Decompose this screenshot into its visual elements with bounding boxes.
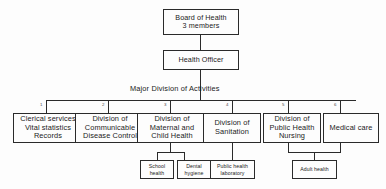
- division-number-6: 6: [334, 102, 336, 107]
- node-health-officer-label: Health Officer: [178, 56, 223, 64]
- node-subunit-public-health-laboratory[interactable]: Public health laboratory: [210, 160, 255, 179]
- node-division-3-line3: Child Health: [151, 132, 192, 141]
- node-board-of-health[interactable]: Board of Health 3 members: [163, 9, 239, 35]
- node-division-1-line3: Records: [34, 132, 62, 141]
- major-division-of-activities-label: Major Division of Activities: [130, 84, 220, 93]
- node-division-2-line3: Disease Control: [83, 132, 137, 141]
- division-number-5: 5: [282, 102, 284, 107]
- node-division-2-communicable-disease-control[interactable]: Division of Communicable Disease Control: [75, 113, 145, 143]
- connector-bar-to-division-3: [170, 100, 171, 113]
- connector-division-3-drop: [170, 143, 171, 152]
- division-number-4: 4: [226, 102, 228, 107]
- org-chart: Board of Health 3 members Health Officer…: [0, 0, 386, 189]
- connector-bar-to-division-4: [232, 100, 233, 113]
- node-subunit-adult-health[interactable]: Adult health: [292, 160, 337, 179]
- node-division-5-public-health-nursing[interactable]: Division of Public Health Nursing: [263, 113, 321, 143]
- node-subunit-school-health[interactable]: School health: [140, 160, 174, 179]
- connector-bracket-to-school-health: [157, 152, 158, 160]
- node-subunit-dental-hygiene-line2: hygiene: [185, 170, 204, 177]
- connector-division-3-bracket: [157, 152, 184, 153]
- connector-bar-to-division-1: [46, 100, 47, 113]
- node-division-1-clerical-services[interactable]: Clerical services Vital statistics Recor…: [13, 113, 83, 143]
- node-division-4-sanitation[interactable]: Division of Sanitation: [203, 113, 261, 143]
- node-subunit-dental-hygiene[interactable]: Dental hygiene: [177, 160, 211, 179]
- division-number-2: 2: [102, 102, 104, 107]
- divisions-distribution-bar: [46, 100, 356, 101]
- connector-bar-to-division-2: [108, 100, 109, 113]
- connector-division-4-to-public-health-laboratory: [232, 143, 233, 160]
- node-division-6-medical-care[interactable]: Medical care: [323, 113, 379, 143]
- connector-board-to-officer: [200, 35, 201, 50]
- node-division-6-line1: Medical care: [329, 124, 372, 133]
- node-board-of-health-line2: 3 members: [183, 22, 220, 30]
- connector-bar-to-division-5: [288, 100, 289, 113]
- connector-division-6-drop: [340, 143, 341, 152]
- division-number-1: 1: [40, 102, 42, 107]
- connector-bar-to-division-6: [340, 100, 341, 113]
- node-division-5-line3: Nursing: [279, 132, 305, 141]
- node-subunit-public-health-laboratory-line2: laboratory: [220, 170, 244, 177]
- node-division-3-maternal-and-child-health[interactable]: Division of Maternal and Child Health: [137, 113, 207, 143]
- connector-bracket-to-dental-hygiene: [184, 152, 185, 160]
- connector-division-5-drop: [288, 143, 289, 152]
- connector-bracket-to-adult-health: [314, 152, 315, 160]
- node-division-4-line2: Sanitation: [215, 128, 249, 137]
- node-subunit-school-health-line2: health: [150, 170, 165, 177]
- node-health-officer[interactable]: Health Officer: [163, 50, 239, 70]
- division-number-3: 3: [164, 102, 166, 107]
- node-subunit-adult-health-line1: Adult health: [300, 166, 329, 173]
